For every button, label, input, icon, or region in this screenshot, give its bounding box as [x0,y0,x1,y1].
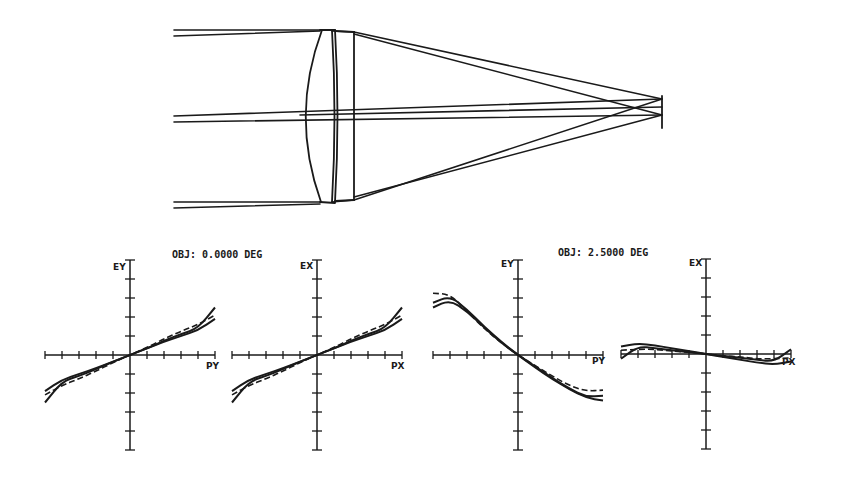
ray-fan-plot-4 [621,259,791,449]
plot1-y-label: EY [113,262,126,272]
ray-fan-plot-3 [433,260,603,450]
lens-doublet [306,30,354,203]
optical-layout-figure: OBJ: 0.0000 DEG OBJ: 2.5000 DEG EY PY EX… [0,0,849,500]
plot4-x-label: PX [782,357,796,367]
ray-bundle-axial [174,99,662,122]
plot4-y-label: EX [689,258,702,268]
group-title-2-5deg: OBJ: 2.5000 DEG [558,247,648,258]
plot2-y-label: EX [300,261,313,271]
ray-fan-plot-1 [45,260,215,450]
plot3-x-label: PY [592,356,605,366]
ray-fan-plot-2 [232,260,402,450]
plot1-x-label: PY [206,361,219,371]
group-title-0deg: OBJ: 0.0000 DEG [172,249,262,260]
plot2-x-label: PX [391,361,405,371]
lens-layout-diagram [0,0,849,500]
plot3-y-label: EY [501,259,514,269]
